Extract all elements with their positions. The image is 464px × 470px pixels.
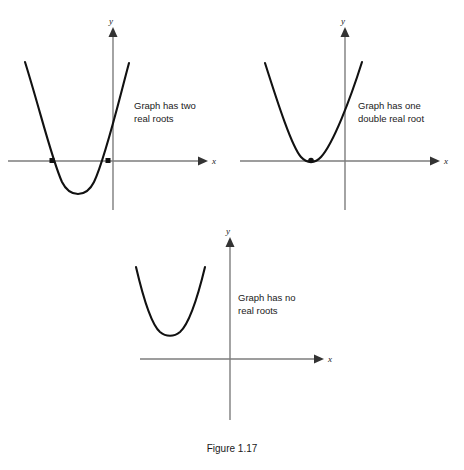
- panel1-root-marker-left: [50, 158, 55, 163]
- panel1-x-axis-label: x: [211, 156, 216, 166]
- panel1-y-axis-label: y: [108, 16, 113, 26]
- panel2-double-root-marker: [308, 158, 314, 164]
- panel2-annotation-line1: Graph has one: [358, 100, 421, 111]
- panel2-annotation-line2: double real root: [358, 113, 424, 124]
- panel-two-real-roots: x y Graph has two real roots: [8, 16, 216, 210]
- panel2-y-axis-label: y: [340, 16, 345, 26]
- panel1-y-axis-arrow-icon: [109, 27, 118, 37]
- panel1-annotation-line1: Graph has two: [134, 100, 196, 111]
- panel3-x-axis-arrow-icon: [314, 355, 324, 364]
- panel1-annotation-line2: real roots: [134, 113, 174, 124]
- figure-canvas: x y Graph has two real roots x y: [0, 0, 464, 470]
- panel2-x-axis-arrow-icon: [430, 157, 440, 166]
- panel1-x-axis-arrow-icon: [198, 157, 208, 166]
- panel2-x-axis-label: x: [443, 156, 448, 166]
- panel3-y-axis-arrow-icon: [226, 237, 235, 247]
- panel-no-real-roots: x y Graph has no real roots: [136, 226, 332, 420]
- panel1-root-marker-right: [106, 158, 111, 163]
- figure-container: x y Graph has two real roots x y: [0, 0, 464, 470]
- panel2-parabola-curve: [265, 62, 362, 162]
- panel2-y-axis-arrow-icon: [341, 27, 350, 37]
- figure-caption: Figure 1.17: [207, 443, 258, 454]
- panel-one-double-root: x y Graph has one double real root: [240, 16, 448, 210]
- panel3-annotation-line2: real roots: [238, 305, 278, 316]
- panel3-x-axis-label: x: [327, 354, 332, 364]
- panel3-y-axis-label: y: [225, 226, 230, 236]
- panel3-annotation-line1: Graph has no: [238, 292, 296, 303]
- panel3-parabola-curve: [136, 267, 205, 336]
